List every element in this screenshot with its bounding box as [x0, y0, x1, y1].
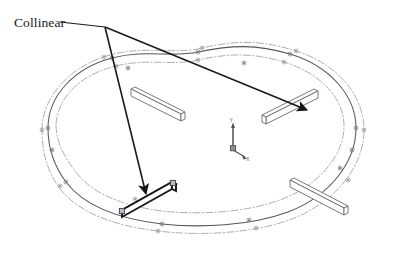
curve-point-marker [125, 65, 130, 70]
guide-point-marker [39, 127, 44, 132]
guide-point-marker [199, 45, 204, 50]
curve-point-marker [241, 60, 246, 65]
cad-diagram-svg: YX Collinear [0, 0, 403, 253]
curve-point-marker [337, 165, 342, 170]
guide-point-marker [345, 177, 350, 182]
guide-point-marker [253, 225, 258, 230]
rib-handle-start[interactable] [119, 208, 124, 213]
triad-origin-marker [230, 146, 235, 151]
collinear-label: Collinear [14, 15, 66, 30]
guide-point-marker [195, 57, 200, 62]
curve-point-marker [195, 49, 200, 54]
guide-point-marker [293, 48, 298, 53]
triad-x-label: X [246, 157, 249, 162]
curve-point-marker [63, 179, 68, 184]
guide-point-marker [361, 127, 366, 132]
guide-point-marker [155, 228, 160, 233]
rib-handle-end[interactable] [170, 180, 175, 185]
guide-point-marker [101, 54, 106, 59]
triad-y-label: Y [230, 118, 233, 123]
curve-point-marker [353, 125, 358, 130]
diagram-canvas: YX Collinear [0, 0, 403, 253]
curve-point-marker [45, 125, 50, 130]
guide-point-marker [281, 59, 286, 64]
rib-upper-right-side-face [262, 115, 266, 124]
background [0, 0, 403, 253]
guide-point-marker [57, 183, 62, 188]
curve-point-marker [349, 147, 354, 152]
rib-lower-right-side-face [344, 206, 348, 215]
rib-upper-left-side-face [181, 112, 185, 121]
curve-point-marker [49, 147, 54, 152]
curve-point-marker [246, 217, 251, 222]
curve-point-marker [159, 221, 164, 226]
curve-point-marker [287, 51, 292, 56]
